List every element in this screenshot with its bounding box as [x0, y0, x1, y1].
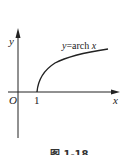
- x-axis-label: x: [112, 94, 118, 106]
- arch-cosh-graph: y O 1 x y=arch x 图 1-18: [0, 0, 125, 155]
- arch-curve: [37, 49, 108, 92]
- curve-label: y=arch x: [61, 40, 97, 51]
- curve-label-rest: =arch: [66, 40, 91, 51]
- figure-caption: 图 1-18: [50, 149, 89, 155]
- y-axis-arrow-icon: [16, 28, 21, 38]
- origin-label: O: [9, 94, 17, 106]
- x-tick-label-1: 1: [34, 94, 40, 106]
- y-axis-label: y: [8, 35, 14, 47]
